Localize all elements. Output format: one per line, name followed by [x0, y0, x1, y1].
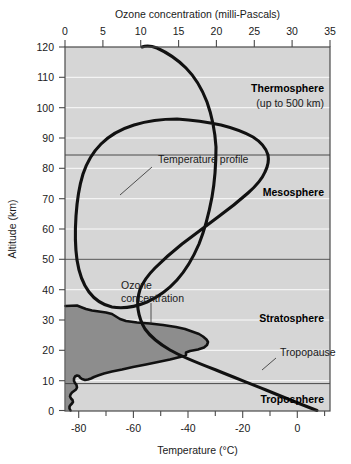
layer-label-thermosphere: Thermosphere: [251, 82, 324, 94]
left-axis-title: Altitude (km): [6, 200, 18, 259]
bottom-tick-1: -60: [126, 422, 141, 434]
top-tick-2: 10: [135, 25, 147, 37]
left-tick-8: 80: [42, 162, 54, 174]
left-tick-1: 10: [42, 375, 54, 387]
layer-label-mesosphere: Mesosphere: [263, 186, 324, 198]
annotation-tropopause: Tropopause: [280, 346, 336, 358]
top-tick-4: 20: [211, 25, 223, 37]
left-tick-4: 40: [42, 284, 54, 296]
layer-label-troposphere: Troposphere: [260, 393, 324, 405]
bottom-tick-3: -20: [235, 422, 250, 434]
left-tick-3: 30: [42, 314, 54, 326]
left-tick-10: 100: [36, 102, 54, 114]
layer-label-stratosphere: Stratosphere: [259, 312, 324, 324]
bottom-tick-0: -80: [71, 422, 86, 434]
bottom-tick-4: 0: [294, 422, 300, 434]
left-tick-12: 120: [36, 41, 54, 53]
left-tick-11: 110: [37, 71, 54, 83]
top-tick-1: 5: [100, 25, 106, 37]
left-tick-2: 20: [42, 344, 54, 356]
left-axis-ticks: [59, 47, 65, 411]
top-tick-7: 35: [324, 25, 336, 37]
left-tick-6: 60: [42, 223, 54, 235]
top-tick-0: 0: [62, 25, 68, 37]
layer-sublabel-thermosphere: (up to 500 km): [256, 97, 324, 109]
left-tick-0: 0: [48, 405, 54, 417]
top-tick-5: 25: [248, 25, 260, 37]
bottom-axis-title: Temperature (°C): [157, 444, 238, 456]
top-tick-6: 30: [286, 25, 298, 37]
annotation-ozone-line2: concentration: [121, 292, 184, 304]
bottom-axis-ticks: [79, 411, 325, 418]
bottom-tick-2: -40: [180, 422, 195, 434]
top-tick-3: 15: [173, 25, 185, 37]
left-tick-5: 50: [42, 253, 54, 265]
annotation-ozone-line1: Ozone: [121, 279, 152, 291]
annotation-temperature-profile: Temperature profile: [158, 153, 249, 165]
top-axis-title: Ozone concentration (milli-Pascals): [115, 8, 280, 20]
chart-svg: Ozone concentration (milli-Pascals) 0 5 …: [0, 0, 351, 464]
top-axis-ticks: [65, 40, 330, 47]
left-tick-9: 90: [42, 132, 54, 144]
left-tick-7: 70: [42, 193, 54, 205]
atmosphere-profile-figure: Ozone concentration (milli-Pascals) 0 5 …: [0, 0, 351, 464]
